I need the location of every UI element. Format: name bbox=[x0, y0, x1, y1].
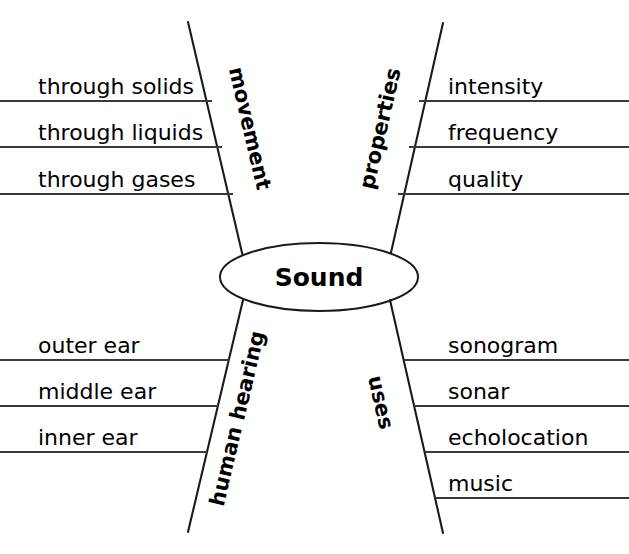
leaf-label-uses-0: sonogram bbox=[448, 333, 558, 358]
leaf-label-human-hearing-0: outer ear bbox=[38, 333, 141, 358]
leaf-label-uses-2: echolocation bbox=[448, 425, 588, 450]
leaf-label-uses-1: sonar bbox=[448, 379, 510, 404]
leaf-label-properties-0: intensity bbox=[448, 74, 543, 99]
leaf-label-properties-1: frequency bbox=[448, 120, 558, 145]
leaf-label-human-hearing-2: inner ear bbox=[38, 425, 139, 450]
concept-map-diagram: through solids through liquids through g… bbox=[0, 0, 629, 554]
branch-spoke-uses bbox=[390, 300, 443, 533]
center-node-label: Sound bbox=[275, 263, 364, 292]
branch-properties: intensity frequency quality properties bbox=[355, 23, 629, 257]
leaf-label-movement-2: through gases bbox=[38, 167, 195, 192]
branch-label-movement: movement bbox=[224, 65, 276, 193]
leaf-label-human-hearing-1: middle ear bbox=[38, 379, 157, 404]
branch-label-uses: uses bbox=[363, 373, 398, 431]
branch-movement: through solids through liquids through g… bbox=[0, 22, 276, 257]
branch-spoke-properties bbox=[390, 23, 443, 257]
leaf-label-properties-2: quality bbox=[448, 167, 523, 192]
branch-label-properties: properties bbox=[355, 66, 406, 192]
leaf-label-uses-3: music bbox=[448, 471, 513, 496]
branch-uses: sonogram sonar echolocation music uses bbox=[363, 300, 629, 533]
concept-map-canvas: through solids through liquids through g… bbox=[0, 0, 629, 554]
branch-human-hearing: outer ear middle ear inner ear human hea… bbox=[0, 300, 269, 532]
leaf-label-movement-0: through solids bbox=[38, 74, 194, 99]
center-node: Sound bbox=[220, 243, 418, 311]
leaf-label-movement-1: through liquids bbox=[38, 120, 203, 145]
